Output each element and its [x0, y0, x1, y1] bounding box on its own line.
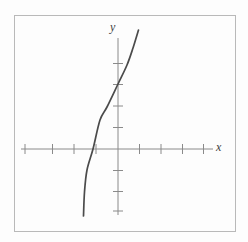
function-curve — [84, 30, 139, 216]
y-axis-label: y — [110, 21, 115, 33]
function-graph — [0, 0, 248, 242]
x-axis-label: x — [216, 141, 221, 153]
